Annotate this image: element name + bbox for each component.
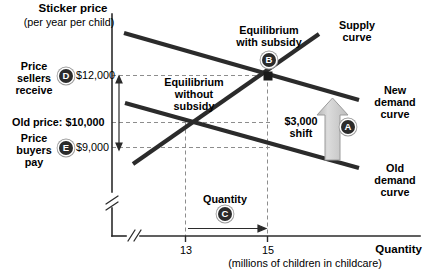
eq-without-subsidy-line2: without bbox=[146, 88, 242, 100]
equilibrium-without-subsidy-label: Equilibrium without subsidy bbox=[146, 76, 242, 112]
price-buyers-pay-label: Price buyers pay bbox=[8, 132, 60, 168]
x-axis-title: Quantity bbox=[300, 243, 422, 256]
badge-e: E bbox=[59, 141, 73, 155]
x-tick-label-13: 13 bbox=[172, 244, 200, 256]
eq-without-subsidy-line1: Equilibrium bbox=[146, 76, 242, 88]
new-demand-line2: demand bbox=[366, 96, 424, 108]
quantity-arrow bbox=[188, 225, 266, 232]
supply-curve-line1: Supply bbox=[325, 19, 389, 31]
price-sellers-line2: sellers bbox=[8, 72, 60, 84]
old-demand-line1: Old bbox=[366, 162, 424, 174]
supply-curve-label: Supply curve bbox=[325, 19, 389, 43]
quantity-annotation-label: Quantity bbox=[188, 193, 262, 205]
eq-with-subsidy-line2: with subsidy bbox=[214, 36, 324, 48]
supply-curve-line2: curve bbox=[325, 31, 389, 43]
price-sellers-receive-label: Price sellers receive bbox=[8, 60, 60, 96]
equilibrium-b-marker bbox=[264, 72, 273, 81]
old-demand-line2: demand bbox=[366, 174, 424, 186]
badge-a: A bbox=[341, 120, 355, 134]
x-axis-subtitle: (millions of children in childcare) bbox=[185, 257, 425, 269]
shift-amount-line2: shift bbox=[278, 127, 324, 139]
y-axis-subtitle: (per year per child) bbox=[8, 16, 130, 28]
x-axis-break-icon bbox=[128, 230, 141, 241]
new-demand-line3: curve bbox=[366, 108, 424, 120]
price-gap-arrow bbox=[116, 76, 122, 150]
x-tick-label-15: 15 bbox=[254, 244, 282, 256]
old-demand-curve-label: Old demand curve bbox=[366, 162, 424, 198]
supply-demand-chart: Sticker price (per year per child) Price… bbox=[0, 0, 427, 275]
new-demand-curve-label: New demand curve bbox=[366, 84, 424, 120]
new-demand-line1: New bbox=[366, 84, 424, 96]
badge-d: D bbox=[59, 69, 73, 83]
price-sellers-line3: receive bbox=[8, 84, 60, 96]
eq-with-subsidy-line1: Equilibrium bbox=[214, 24, 324, 36]
badge-c: C bbox=[218, 207, 232, 221]
price-sellers-line1: Price bbox=[8, 60, 60, 72]
price-sellers-value: $12,000 bbox=[76, 69, 115, 81]
price-buyers-value: $9,000 bbox=[76, 141, 109, 153]
eq-without-subsidy-line3: subsidy bbox=[146, 100, 242, 112]
y-axis-title: Sticker price bbox=[18, 2, 128, 15]
price-buyers-line3: pay bbox=[8, 156, 60, 168]
x-axis-ticks bbox=[186, 236, 268, 242]
old-demand-line3: curve bbox=[366, 186, 424, 198]
price-buyers-line2: buyers bbox=[8, 144, 60, 156]
equilibrium-with-subsidy-label: Equilibrium with subsidy bbox=[214, 24, 324, 48]
price-buyers-line1: Price bbox=[8, 132, 60, 144]
badge-b: B bbox=[262, 53, 276, 67]
shift-amount-line1: $3,000 bbox=[278, 115, 324, 127]
shift-amount-label: $3,000 shift bbox=[278, 115, 324, 139]
old-price-full: Old price: $10,000 bbox=[12, 116, 104, 128]
